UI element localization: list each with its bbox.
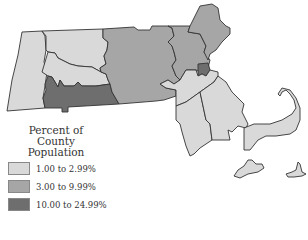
- legend-label: 10.00 to 24.99%: [36, 200, 107, 210]
- legend-swatch-high: [8, 198, 30, 211]
- county-nantucket: [286, 162, 306, 177]
- legend-item-low: 1.00 to 2.99%: [8, 161, 128, 176]
- legend: Percent of County Population 1.00 to 2.9…: [8, 125, 128, 212]
- legend-swatch-mid: [8, 180, 30, 193]
- legend-label: 1.00 to 2.99%: [36, 164, 96, 174]
- legend-title: Percent of County Population: [8, 125, 104, 158]
- county-berkshire: [7, 31, 47, 111]
- legend-label: 3.00 to 9.99%: [36, 182, 96, 192]
- county-worcester: [100, 26, 180, 104]
- legend-item-mid: 3.00 to 9.99%: [8, 179, 128, 194]
- legend-title-line2: County Population: [8, 136, 104, 158]
- legend-item-high: 10.00 to 24.99%: [8, 197, 128, 212]
- county-barnstable: [244, 88, 300, 150]
- legend-swatch-low: [8, 162, 30, 175]
- county-dukes: [234, 160, 264, 178]
